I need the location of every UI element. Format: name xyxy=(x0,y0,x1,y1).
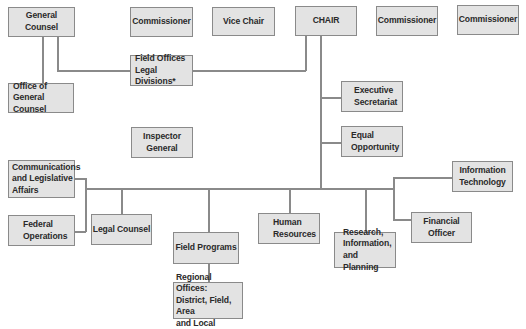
node-label: Federal Operations xyxy=(23,219,67,242)
node-label: Commissioner xyxy=(378,15,437,27)
node-chair: CHAIR xyxy=(295,6,357,36)
node-label: Legal Counsel xyxy=(93,224,150,236)
node-label: Field Offices Legal Divisions* xyxy=(135,53,192,88)
node-label: CHAIR xyxy=(313,15,340,27)
node-commissioner-3: Commissioner xyxy=(457,5,519,35)
node-inspector-general: Inspector General xyxy=(131,127,193,158)
node-commissioner-2: Commissioner xyxy=(376,6,438,36)
node-label: Field Programs xyxy=(175,242,236,254)
connector-line xyxy=(85,178,87,232)
node-label: Research, Information, and Planning xyxy=(343,227,395,273)
connector-line xyxy=(289,188,291,213)
connector-line xyxy=(85,188,394,190)
node-field-offices-legal-divisions: Field Offices Legal Divisions* xyxy=(130,55,193,86)
connector-line xyxy=(320,36,322,189)
node-label: Executive Secretariat xyxy=(354,85,397,108)
node-research-information-planning: Research, Information, and Planning xyxy=(334,232,396,268)
node-commissioner-1: Commissioner xyxy=(130,7,193,37)
node-information-technology: Information Technology xyxy=(452,161,513,192)
node-label: Inspector General xyxy=(143,131,181,154)
node-financial-officer: Financial Officer xyxy=(411,212,472,243)
node-legal-counsel: Legal Counsel xyxy=(91,214,152,245)
connector-line xyxy=(42,37,44,83)
node-label: Vice Chair xyxy=(223,16,264,28)
node-communications-legislative-affairs: Communications and Legislative Affairs xyxy=(8,160,75,198)
node-label: Communications and Legislative Affairs xyxy=(12,162,80,197)
connector-line xyxy=(393,177,452,179)
connector-line xyxy=(365,188,367,232)
node-equal-opportunity: Equal Opportunity xyxy=(341,126,403,157)
node-label: Commissioner xyxy=(459,14,518,26)
node-field-programs: Field Programs xyxy=(173,232,239,264)
node-office-of-general-counsel: Office of General Counsel xyxy=(8,83,74,113)
connector-line xyxy=(208,188,210,232)
connector-line xyxy=(305,36,307,71)
connector-line xyxy=(320,97,341,99)
node-label: Equal Opportunity xyxy=(351,130,399,153)
connector-line xyxy=(393,177,395,220)
node-label: Commissioner xyxy=(132,16,191,28)
node-label: Office of General Counsel xyxy=(13,81,73,116)
node-label: Regional Offices: District, Field, Area … xyxy=(176,272,242,329)
node-label: Financial Officer xyxy=(412,216,471,239)
connector-line xyxy=(57,37,59,71)
node-federal-operations: Federal Operations xyxy=(8,215,75,246)
connector-line xyxy=(75,231,86,233)
node-executive-secretariat: Executive Secretariat xyxy=(341,81,403,112)
node-label: Human Resources xyxy=(273,217,316,240)
node-vice-chair: Vice Chair xyxy=(212,7,275,36)
node-label: General Counsel xyxy=(9,10,74,33)
connector-line xyxy=(320,142,341,144)
node-human-resources: Human Resources xyxy=(258,213,320,244)
node-regional-offices: Regional Offices: District, Field, Area … xyxy=(173,282,243,319)
connector-line xyxy=(393,219,411,221)
node-label: Information Technology xyxy=(459,165,506,188)
connector-line xyxy=(121,188,123,214)
node-general-counsel: General Counsel xyxy=(8,7,75,37)
